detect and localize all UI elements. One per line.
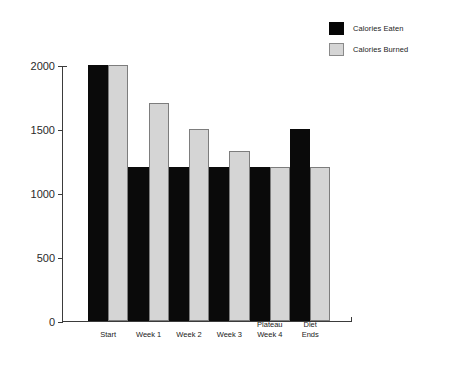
y-tick-label: 1500 [31,124,55,136]
y-tick-mark [58,130,63,131]
bar-calories-burned [108,65,128,321]
legend-label-calories-eaten: Calories Eaten [353,24,404,33]
y-tick-mark [58,258,63,259]
bar-calories-burned [270,167,290,321]
legend-label-calories-burned: Calories Burned [353,45,408,54]
plot-area: 0500100015002000 StartWeek 1Week 2Week 3… [62,66,352,322]
y-tick-label: 500 [37,252,55,264]
legend-swatch-calories-eaten [329,22,344,35]
bar-calories-eaten [169,167,189,321]
bar-calories-eaten [128,167,148,321]
x-axis-label: Week 2 [176,330,201,340]
y-tick-mark [58,66,63,67]
bar-calories-burned [149,103,169,321]
bar-calories-burned [229,151,249,321]
x-axis-label-line: Ends [302,330,319,340]
bar-calories-eaten [88,65,108,321]
bar-calories-burned [189,129,209,321]
x-axis-label-line: Diet [304,320,317,329]
y-tick-label: 0 [49,316,55,328]
chart-legend: Calories Eaten Calories Burned [329,18,447,60]
x-axis-label: DietEnds [302,320,319,339]
bar-calories-burned [310,167,330,321]
x-axis-label-line: Plateau [257,320,282,329]
legend-item-calories-eaten: Calories Eaten [329,18,447,39]
x-axis-right-cap [351,317,352,322]
x-axis-label: Week 3 [217,330,242,340]
y-tick-label: 1000 [31,188,55,200]
bar-chart-figure: Calories Eaten Calories Burned 050010001… [0,0,450,376]
x-axis-label-line: Week 4 [257,330,282,340]
bar-calories-eaten [290,129,310,321]
legend-item-calories-burned: Calories Burned [329,39,447,60]
legend-swatch-calories-burned [329,43,344,56]
bar-calories-eaten [250,167,270,321]
x-axis-label: Start [100,330,116,340]
y-tick-mark [58,322,63,323]
x-axis-label: PlateauWeek 4 [257,320,282,339]
bar-calories-eaten [209,167,229,321]
y-tick-label: 2000 [31,60,55,72]
y-tick-mark [58,194,63,195]
x-axis-label: Week 1 [136,330,161,340]
